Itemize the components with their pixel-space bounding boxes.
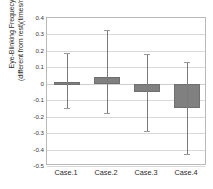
error-bar-line <box>147 54 148 131</box>
error-bar-line <box>107 30 108 114</box>
y-axis-tick-label: -0.5 <box>24 162 44 169</box>
y-axis-tick-label: 0.2 <box>24 46 44 53</box>
error-bar-line <box>67 53 68 109</box>
y-axis-tick-label: 0.4 <box>24 14 44 21</box>
y-axis-title-line-1: Eye-Blinking Frequecy <box>8 0 17 68</box>
y-axis-tick-label: 0.3 <box>24 30 44 37</box>
error-bar-cap-upper <box>184 62 190 63</box>
error-bar-line <box>187 62 188 154</box>
y-axis-tick-label: -0.2 <box>24 112 44 119</box>
y-axis-tick-label: 0.1 <box>24 63 44 70</box>
y-axis-tick-label: -0.4 <box>24 145 44 152</box>
error-bar-cap-upper <box>144 54 150 55</box>
error-bar-cap-lower <box>104 113 110 114</box>
x-axis-tick-label: Case.2 <box>86 168 126 177</box>
y-axis-tick-labels: 0.40.30.20.10-0.1-0.2-0.3-0.4-0.5 <box>22 0 44 189</box>
error-bar-cap-upper <box>64 53 70 54</box>
y-axis-tick-label: -0.3 <box>24 129 44 136</box>
y-axis-tick-label: -0.1 <box>24 96 44 103</box>
gridline <box>47 166 205 167</box>
x-axis-tick-label: Case.4 <box>166 168 206 177</box>
error-bar-cap-lower <box>184 154 190 155</box>
x-axis-tick-label: Case.1 <box>46 168 86 177</box>
error-bar-cap-lower <box>144 131 150 132</box>
x-axis-tick-labels: Case.1Case.2Case.3Case.4 <box>46 168 206 182</box>
bar-group <box>127 18 167 164</box>
chart-figure: Eye-Blinking Frequecy (different from re… <box>0 0 213 189</box>
plot-area <box>46 17 206 165</box>
bar-group <box>167 18 207 164</box>
x-axis-tick-label: Case.3 <box>126 168 166 177</box>
bar-group <box>47 18 87 164</box>
error-bar-cap-upper <box>104 30 110 31</box>
y-axis-tick-label: 0 <box>24 79 44 86</box>
error-bar-cap-lower <box>64 108 70 109</box>
bar-group <box>87 18 127 164</box>
